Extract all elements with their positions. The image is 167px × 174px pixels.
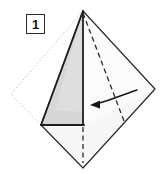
step-number-badge: 1 [26,14,45,34]
origami-step-figure: 1 [0,0,167,174]
shaded-flap-highlight [55,11,84,112]
